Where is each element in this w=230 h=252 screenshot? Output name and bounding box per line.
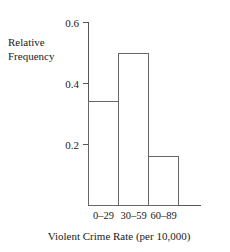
histogram-plot: 0.6 0.4 0.2 0–29 30–59 60–89 Violent Cri… xyxy=(0,0,230,252)
x-category-labels: 0–29 30–59 60–89 xyxy=(93,210,177,221)
bar-30-59 xyxy=(119,53,149,206)
x-axis-title: Violent Crime Rate (per 10,000) xyxy=(48,230,191,243)
bar-60-89 xyxy=(149,157,179,206)
y-tick-label-0.6: 0.6 xyxy=(65,17,79,29)
x-label-30-59: 30–59 xyxy=(120,210,146,221)
bar-0-29 xyxy=(89,102,119,206)
y-tick-labels: 0.6 0.4 0.2 xyxy=(65,17,79,151)
y-tick-label-0.2: 0.2 xyxy=(65,139,79,151)
bars xyxy=(89,53,179,206)
relative-frequency-histogram: Relative Frequency 0.6 0.4 0.2 0–29 30–5… xyxy=(0,0,230,252)
y-tick-label-0.4: 0.4 xyxy=(65,78,79,90)
x-label-60-89: 60–89 xyxy=(150,210,176,221)
y-axis xyxy=(83,22,89,206)
x-label-0-29: 0–29 xyxy=(93,210,114,221)
